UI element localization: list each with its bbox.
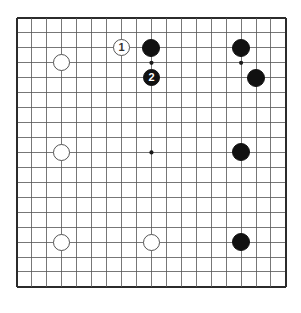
stone-move-number-1: 1 bbox=[119, 42, 125, 53]
stone-move-number-2: 2 bbox=[148, 72, 154, 83]
star-point-1 bbox=[149, 61, 153, 65]
stone-black-16-4[interactable] bbox=[247, 69, 265, 87]
stone-black-15-2[interactable] bbox=[232, 39, 250, 57]
stone-white-3-15[interactable] bbox=[53, 234, 70, 251]
go-board-diagram: 12 bbox=[0, 0, 301, 313]
stone-white-9-15[interactable] bbox=[143, 234, 160, 251]
star-point-4 bbox=[149, 150, 153, 154]
star-point-2 bbox=[239, 61, 243, 65]
